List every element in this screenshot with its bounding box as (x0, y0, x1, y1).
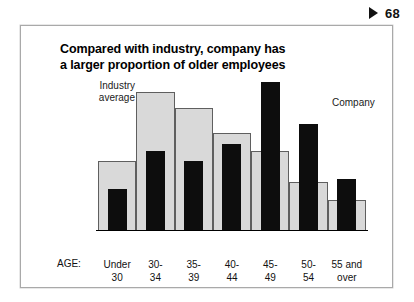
chart-title-line-2: a larger proportion of older employees (60, 57, 370, 73)
bar-company (222, 144, 241, 230)
bar-company (299, 124, 318, 230)
bar-company (184, 161, 203, 230)
category-label-line-2: 44 (213, 271, 251, 284)
bar-company (261, 82, 280, 230)
category-label-line-1: 35- (175, 258, 213, 271)
category-label-line-1: 45- (251, 258, 289, 271)
category-label: 45-49 (251, 258, 289, 284)
category-label: 50-54 (289, 258, 327, 284)
category-label-line-1: 30- (136, 258, 174, 271)
bar-company (146, 151, 165, 230)
category-label-line-1: 50- (289, 258, 327, 271)
category-label-line-2: 54 (289, 271, 327, 284)
category-label-line-2: 34 (136, 271, 174, 284)
bar-group (289, 78, 327, 230)
category-label: 35-39 (175, 258, 213, 284)
bar-group (175, 78, 213, 230)
category-label-line-2: 30 (98, 271, 136, 284)
category-label: 55 andover (328, 258, 366, 284)
x-axis-line (96, 230, 368, 231)
bar-group (98, 78, 136, 230)
category-label-line-1: 40- (213, 258, 251, 271)
chart-title: Compared with industry, company has a la… (60, 41, 370, 73)
page-marker: 68 (369, 4, 400, 22)
category-label-line-2: 39 (175, 271, 213, 284)
bar-group (328, 78, 366, 230)
category-label-line-2: 49 (251, 271, 289, 284)
category-label-line-1: Under (98, 258, 136, 271)
bar-group (213, 78, 251, 230)
plot-area (98, 78, 366, 230)
category-label-line-1: 55 and (328, 258, 366, 271)
bar-group (251, 78, 289, 230)
chart-frame: Compared with industry, company has a la… (20, 25, 393, 288)
page-number: 68 (385, 6, 400, 21)
category-label: 40-44 (213, 258, 251, 284)
bar-group (136, 78, 174, 230)
bar-company (337, 179, 356, 230)
category-label-line-2: over (328, 271, 366, 284)
chart-page: 68 Compared with industry, company has a… (0, 0, 414, 302)
category-labels: Under3030-3435-3940-4445-4950-5455 andov… (98, 258, 366, 290)
bar-company (108, 189, 127, 230)
axis-title-age: AGE: (57, 258, 81, 269)
category-label: Under30 (98, 258, 136, 284)
category-label: 30-34 (136, 258, 174, 284)
chart-title-line-1: Compared with industry, company has (60, 41, 370, 57)
play-triangle-icon (369, 7, 378, 19)
